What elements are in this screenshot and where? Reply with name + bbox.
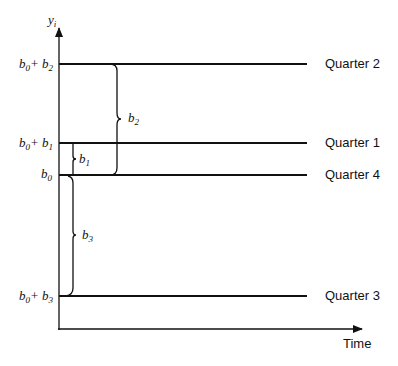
y-axis-label: yi	[46, 12, 57, 29]
brace-b3	[66, 176, 76, 296]
quarter-3-label: Quarter 3	[325, 288, 380, 303]
brace-b2	[110, 64, 121, 175]
brace-b1-label: b1	[79, 151, 90, 168]
tick-label-b0-plus-b2: b0+ b2	[19, 56, 54, 73]
seasonal-dummy-diagram: yi Time Quarter 2 Quarter 1 Quarter 4 Qu…	[0, 0, 398, 366]
x-axis-label: Time	[343, 336, 371, 351]
quarter-1-label: Quarter 1	[325, 135, 380, 150]
tick-label-b0-plus-b3: b0+ b3	[19, 288, 54, 305]
brace-b3-label: b3	[82, 227, 94, 244]
quarter-2-label: Quarter 2	[325, 56, 380, 71]
quarter-4-label: Quarter 4	[325, 167, 380, 182]
diagram-canvas: yi Time Quarter 2 Quarter 1 Quarter 4 Qu…	[0, 0, 398, 366]
brace-b2-label: b2	[128, 110, 140, 127]
tick-label-b0: b0	[41, 166, 53, 183]
brace-b1	[73, 143, 76, 175]
tick-label-b0-plus-b1: b0+ b1	[19, 135, 53, 152]
